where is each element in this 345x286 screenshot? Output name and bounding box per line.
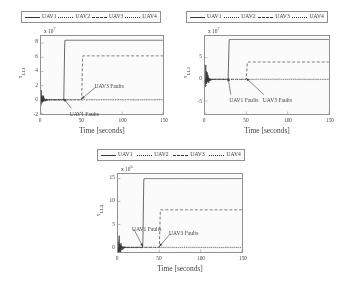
y-axis-tick-label: 0 [104, 245, 115, 250]
legend-entry-uav1: UAV1 [190, 14, 222, 20]
x-axis-tick-label: 50 [151, 256, 167, 261]
series-line-uav1 [41, 40, 163, 106]
series-line-uav1 [205, 39, 329, 87]
legend-entry-uav3: UAV3 [173, 152, 205, 158]
y-axis-tick-label: 8 [27, 39, 38, 44]
chart-panel-3: UAV1UAV2UAV3UAV4 x 106 τLL4 Time [second… [85, 143, 260, 286]
x-axis-tick-label: 100 [280, 118, 296, 123]
annotation-arrowhead-icon [227, 78, 230, 81]
x-axis-tick-label: 150 [235, 256, 251, 261]
y-axis-exponent-panel-3: x 106 [121, 165, 133, 172]
x-axis-tick-label: 100 [115, 118, 131, 123]
legend-line-sample-uav2-icon [58, 15, 73, 20]
series-line-uav4 [205, 75, 329, 86]
y-axis-tick-label: 5 [104, 222, 115, 227]
legend-label: UAV2 [154, 152, 169, 158]
y-axis-tick-label: 6 [27, 54, 38, 59]
x-axis-tick-label: 0 [32, 118, 48, 123]
y-axis-tick-label: 10 [104, 198, 115, 203]
y-axis-tick-label: -5 [191, 99, 202, 104]
legend-panel-2: UAV1UAV2UAV3UAV4 [186, 11, 328, 23]
y-axis-label-panel-2: τLL2 [181, 60, 190, 86]
series-line-uav3 [41, 56, 163, 103]
legend-entry-uav2: UAV2 [58, 14, 90, 20]
legend-line-sample-uav1-icon [25, 15, 40, 20]
legend-entry-uav3: UAV3 [258, 14, 290, 20]
legend-line-sample-uav2-icon [137, 153, 152, 158]
legend-label: UAV3 [109, 14, 124, 20]
legend-label: UAV4 [309, 14, 324, 20]
x-axis-label-panel-3: Time [seconds] [117, 264, 243, 273]
legend-label: UAV1 [118, 152, 133, 158]
legend-label: UAV2 [241, 14, 256, 20]
legend-line-sample-uav2-icon [224, 15, 239, 20]
x-axis-tick-label: 0 [196, 118, 212, 123]
series-curves-panel-1 [41, 36, 163, 114]
figure-three-panel-fault-plots: UAV1UAV2UAV3UAV4 x 107 τLL1 Time [second… [0, 0, 345, 286]
x-axis-label-panel-1: Time [seconds] [40, 126, 164, 135]
y-axis-exponent-panel-2: x 107 [208, 27, 220, 34]
chart-panel-2: UAV1UAV2UAV3UAV4 x 107 τLL2 Time [second… [172, 0, 345, 143]
legend-panel-1: UAV1UAV2UAV3UAV4 [21, 11, 161, 23]
y-axis-tick-label: 0 [191, 76, 202, 81]
legend-line-sample-uav3-icon [173, 153, 188, 158]
plot-area-panel-1 [40, 35, 164, 115]
legend-entry-uav2: UAV2 [224, 14, 256, 20]
legend-label: UAV1 [42, 14, 57, 20]
fault-annotation-label: UAV1 Faults [132, 227, 161, 233]
series-curves-panel-3 [118, 174, 242, 252]
y-axis-tick-label: 0 [27, 97, 38, 102]
legend-entry-uav4: UAV4 [125, 14, 157, 20]
legend-entry-uav3: UAV3 [92, 14, 124, 20]
legend-line-sample-uav4-icon [209, 153, 224, 158]
legend-entry-uav2: UAV2 [137, 152, 169, 158]
y-axis-tick-label: -2 [27, 112, 38, 117]
x-axis-tick-label: 50 [238, 118, 254, 123]
legend-label: UAV2 [75, 14, 90, 20]
x-axis-label-panel-2: Time [seconds] [204, 126, 330, 135]
legend-line-sample-uav1-icon [101, 153, 116, 158]
x-axis-tick-label: 50 [73, 118, 89, 123]
x-axis-tick-label: 0 [109, 256, 125, 261]
series-line-uav1 [118, 179, 242, 252]
legend-line-sample-uav3-icon [258, 15, 273, 20]
legend-label: UAV1 [207, 14, 222, 20]
y-axis-exponent-panel-1: x 107 [44, 27, 56, 34]
y-axis-tick-label: 15 [104, 175, 115, 180]
legend-line-sample-uav1-icon [190, 15, 205, 20]
fault-annotation-label: UAV1 Faults [229, 98, 258, 104]
fault-annotation-label: UAV3 Faults [95, 84, 124, 90]
plot-area-panel-3 [117, 173, 243, 253]
legend-label: UAV3 [275, 14, 290, 20]
legend-entry-uav1: UAV1 [101, 152, 133, 158]
fault-annotation-label: UAV3 Faults [169, 231, 198, 237]
legend-entry-uav4: UAV4 [292, 14, 324, 20]
annotation-arrow-icon [246, 78, 264, 94]
y-axis-label-panel-1: τLL1 [16, 60, 25, 86]
legend-panel-3: UAV1UAV2UAV3UAV4 [97, 149, 245, 161]
legend-label: UAV3 [190, 152, 205, 158]
y-axis-tick-label: 2 [27, 83, 38, 88]
legend-label: UAV4 [226, 152, 241, 158]
legend-line-sample-uav4-icon [292, 15, 307, 20]
x-axis-tick-label: 150 [322, 118, 338, 123]
y-axis-tick-label: 5 [191, 54, 202, 59]
legend-label: UAV4 [142, 14, 157, 20]
chart-panel-1: UAV1UAV2UAV3UAV4 x 107 τLL1 Time [second… [0, 0, 172, 143]
y-axis-label-panel-3: τLL4 [94, 198, 103, 224]
y-axis-tick-label: 4 [27, 68, 38, 73]
legend-entry-uav4: UAV4 [209, 152, 241, 158]
legend-line-sample-uav3-icon [92, 15, 107, 20]
x-axis-tick-label: 100 [193, 256, 209, 261]
x-axis-tick-label: 150 [156, 118, 172, 123]
fault-annotation-label: UAV1 Faults [70, 112, 99, 118]
series-line-uav4 [118, 241, 242, 252]
legend-line-sample-uav4-icon [125, 15, 140, 20]
legend-entry-uav1: UAV1 [25, 14, 57, 20]
fault-annotation-label: UAV3 Faults [263, 98, 292, 104]
